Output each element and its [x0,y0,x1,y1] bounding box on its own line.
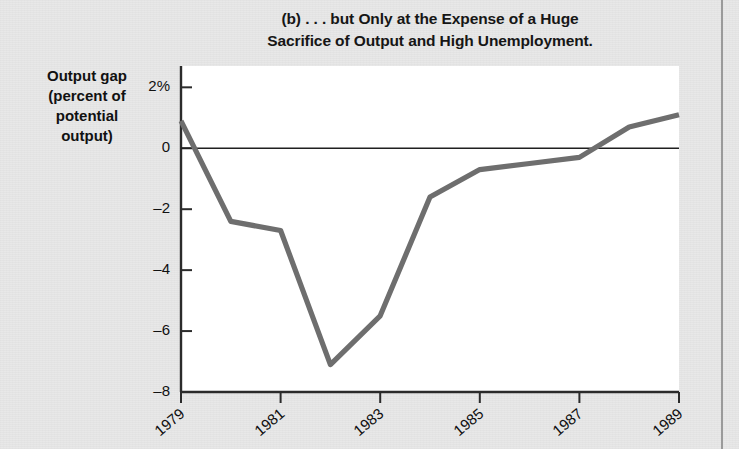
chart-plot: 2%0–2–4–6–8197919811983198519871989 [0,0,739,449]
page-right-rule [721,0,723,449]
plot-area-background [181,66,679,392]
y-axis-tick-label: –8 [60,382,170,399]
y-axis-tick-label: –2 [60,199,170,216]
y-axis-tick-label: 0 [60,138,170,155]
figure-page: (b) . . . but Only at the Expense of a H… [0,0,739,449]
y-axis-tick-label: –6 [60,321,170,338]
y-axis-tick-label: –4 [60,260,170,277]
y-axis-tick-label: 2% [60,77,170,94]
